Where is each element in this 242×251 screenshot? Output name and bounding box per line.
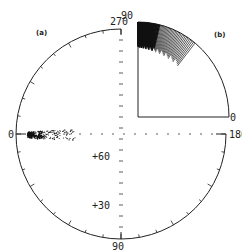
figure-canvas: 270 0 180 90 +60 +30 90 0 (a) (b) [0, 0, 242, 251]
quadrant-label-0: 0 [230, 112, 236, 123]
panel-label-b: (b) [214, 31, 225, 39]
axis-ticks [80, 40, 212, 227]
label-0: 0 [8, 129, 14, 140]
scatter-points [27, 129, 76, 140]
label-90: 90 [112, 241, 124, 251]
quadrant-line-segments [138, 22, 195, 66]
polar-circle-a [16, 29, 226, 239]
label-plus60: +60 [92, 151, 110, 162]
panel-label-a: (a) [36, 29, 47, 37]
label-plus30: +30 [92, 200, 110, 211]
label-180: 180 [229, 129, 242, 140]
quadrant-label-90: 90 [121, 10, 133, 21]
arc-ticks [16, 29, 226, 239]
